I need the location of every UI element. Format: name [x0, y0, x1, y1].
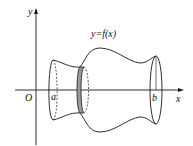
- curve-label: y=f(x): [90, 28, 117, 40]
- solid-of-revolution-diagram: y x O a b y=f(x): [0, 0, 193, 146]
- x-axis-arrow-icon: [178, 88, 184, 92]
- y-axis-label: y: [27, 6, 33, 17]
- x-axis: [15, 88, 184, 92]
- x-axis-label: x: [175, 93, 181, 104]
- diagram-svg: y x O a b y=f(x): [0, 0, 193, 146]
- a-label: a: [51, 91, 56, 102]
- origin-label: O: [25, 92, 32, 103]
- y-axis-arrow-icon: [34, 8, 38, 14]
- lower-curve: [53, 113, 156, 132]
- upper-curve: [53, 48, 156, 67]
- y-axis: [34, 8, 38, 145]
- b-label: b: [152, 92, 157, 103]
